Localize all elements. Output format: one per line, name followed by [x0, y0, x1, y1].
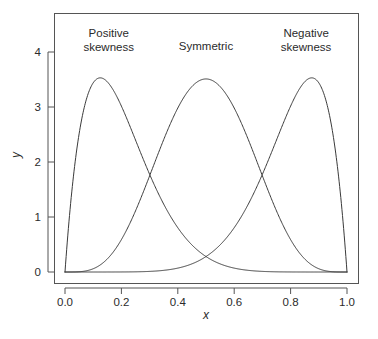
x-tick-label: 0.4 — [170, 296, 187, 308]
annotation-label-positive: Positive — [89, 27, 129, 39]
y-tick-label: 4 — [35, 46, 42, 58]
annotation-label-symmetric: Symmetric — [179, 40, 234, 52]
annotation-label-negative: skewness — [281, 41, 332, 53]
x-tick-label: 0.8 — [283, 296, 299, 308]
x-tick-label: 0.6 — [226, 296, 242, 308]
x-axis-title: x — [202, 308, 210, 322]
x-tick-label: 0.2 — [113, 296, 129, 308]
y-axis-title: y — [9, 151, 23, 159]
annotation-label-negative: Negative — [283, 27, 328, 39]
y-tick-label: 0 — [35, 266, 41, 278]
x-tick-label: 0.0 — [57, 296, 73, 308]
y-tick-label: 2 — [35, 156, 41, 168]
annotation-label-positive: skewness — [83, 41, 134, 53]
skewness-chart: 01234 0.00.20.40.60.81.0 Positiveskewnes… — [0, 0, 378, 339]
y-tick-label: 3 — [35, 101, 41, 113]
x-tick-label: 1.0 — [339, 296, 355, 308]
y-tick-label: 1 — [35, 211, 41, 223]
